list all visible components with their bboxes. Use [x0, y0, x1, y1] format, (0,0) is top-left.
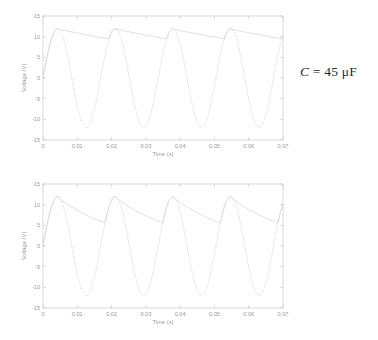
chart-panel-45uf: 00.010.020.030.040.050.060.07-15-10-5051…	[0, 0, 378, 170]
x-tick-label: 0.03	[140, 143, 151, 149]
x-axis-title: Time (s)	[152, 151, 173, 157]
x-tick-label: 0.06	[243, 311, 254, 317]
y-axis-title: Voltage (V)	[21, 64, 27, 93]
plot-area-10uf: 00.010.020.030.040.050.060.07-15-10-5051…	[0, 168, 292, 338]
x-tick-label: 0.05	[209, 311, 220, 317]
x-tick-label: 0.07	[278, 311, 289, 317]
axes-frame	[43, 16, 283, 140]
series-capacitor-output	[43, 197, 283, 246]
figure-container: 00.010.020.030.040.050.060.07-15-10-5051…	[0, 0, 378, 340]
x-tick-label: 0	[41, 143, 44, 149]
annotation-unit: μF	[342, 64, 357, 79]
chart-panel-10uf: 00.010.020.030.040.050.060.07-15-10-5051…	[0, 168, 378, 338]
series-input-sinusoid	[43, 28, 283, 127]
axes-frame	[43, 184, 283, 308]
annotation-value: 45	[324, 64, 338, 79]
chart-render-root-1: 00.010.020.030.040.050.060.07-15-10-5051…	[21, 181, 288, 325]
y-tick-label: -10	[32, 116, 40, 122]
y-tick-label: 10	[34, 34, 40, 40]
y-tick-label: -5	[35, 96, 40, 102]
chart-svg-10uf: 00.010.020.030.040.050.060.07-15-10-5051…	[0, 168, 292, 338]
x-tick-label: 0.07	[278, 143, 289, 149]
annotation-capacitance-45uf: C = 45 μF	[300, 64, 357, 80]
x-tick-label: 0.03	[140, 311, 151, 317]
y-tick-label: -15	[32, 137, 40, 143]
x-tick-label: 0.05	[209, 143, 220, 149]
y-tick-label: 5	[37, 222, 40, 228]
x-tick-label: 0.04	[175, 143, 186, 149]
y-tick-label: 5	[37, 54, 40, 60]
y-tick-label: -5	[35, 264, 40, 270]
y-tick-label: 0	[37, 243, 40, 249]
y-tick-label: 0	[37, 75, 40, 81]
x-tick-label: 0.01	[72, 311, 83, 317]
y-axis-title: Voltage (V)	[21, 232, 27, 261]
annotation-symbol: C	[300, 64, 309, 79]
y-tick-label: 15	[34, 13, 40, 19]
x-axis-title: Time (s)	[152, 319, 173, 325]
y-tick-label: 15	[34, 181, 40, 187]
y-tick-label: 10	[34, 202, 40, 208]
x-tick-label: 0.02	[106, 143, 117, 149]
x-tick-label: 0	[41, 311, 44, 317]
x-tick-label: 0.06	[243, 143, 254, 149]
x-tick-label: 0.02	[106, 311, 117, 317]
y-tick-label: -10	[32, 284, 40, 290]
x-tick-label: 0.04	[175, 311, 186, 317]
y-tick-label: -15	[32, 305, 40, 311]
x-tick-label: 0.01	[72, 143, 83, 149]
plot-area-45uf: 00.010.020.030.040.050.060.07-15-10-5051…	[0, 0, 292, 170]
chart-render-root-0: 00.010.020.030.040.050.060.07-15-10-5051…	[21, 13, 288, 157]
annotation-equals: =	[313, 64, 321, 79]
chart-svg-45uf: 00.010.020.030.040.050.060.07-15-10-5051…	[0, 0, 292, 170]
